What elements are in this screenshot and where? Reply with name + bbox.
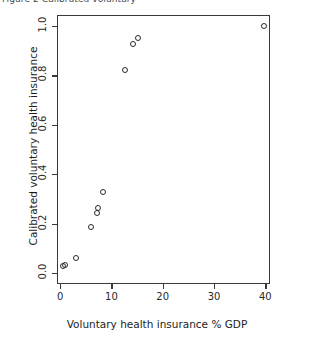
figure-container: Figure 2 Calibrated voluntary 0.00.20.40… bbox=[0, 0, 314, 342]
x-axis-title: Voluntary health insurance % GDP bbox=[0, 318, 314, 330]
figure-caption-text: Figure 2 Calibrated voluntary bbox=[0, 0, 314, 4]
x-axis-tick-label: 30 bbox=[199, 291, 229, 302]
x-axis-tick-label: 20 bbox=[148, 291, 178, 302]
y-axis-tick bbox=[52, 224, 57, 225]
x-axis-tick-label: 10 bbox=[96, 291, 126, 302]
data-point bbox=[62, 262, 68, 268]
y-axis-tick bbox=[52, 125, 57, 126]
y-axis-tick bbox=[52, 174, 57, 175]
x-axis-tick-label: 40 bbox=[250, 291, 280, 302]
data-point bbox=[88, 224, 94, 230]
y-axis-title: Calibrated voluntary health insurance bbox=[27, 31, 39, 261]
data-point bbox=[261, 23, 267, 29]
x-axis-tick bbox=[60, 284, 61, 289]
y-axis-tick bbox=[52, 26, 57, 27]
data-point bbox=[122, 67, 128, 73]
data-point bbox=[95, 205, 101, 211]
y-axis-tick bbox=[52, 75, 57, 76]
plot-frame bbox=[57, 15, 270, 284]
x-axis-tick bbox=[265, 284, 266, 289]
data-point bbox=[94, 210, 100, 216]
x-axis-tick bbox=[111, 284, 112, 289]
data-point bbox=[135, 35, 141, 41]
y-axis-tick bbox=[52, 273, 57, 274]
data-point bbox=[100, 189, 106, 195]
x-axis-tick bbox=[214, 284, 215, 289]
data-point bbox=[130, 41, 136, 47]
data-point bbox=[73, 255, 79, 261]
x-axis-tick bbox=[163, 284, 164, 289]
scatter-points-layer bbox=[58, 16, 269, 283]
x-axis-tick-label: 0 bbox=[45, 291, 75, 302]
